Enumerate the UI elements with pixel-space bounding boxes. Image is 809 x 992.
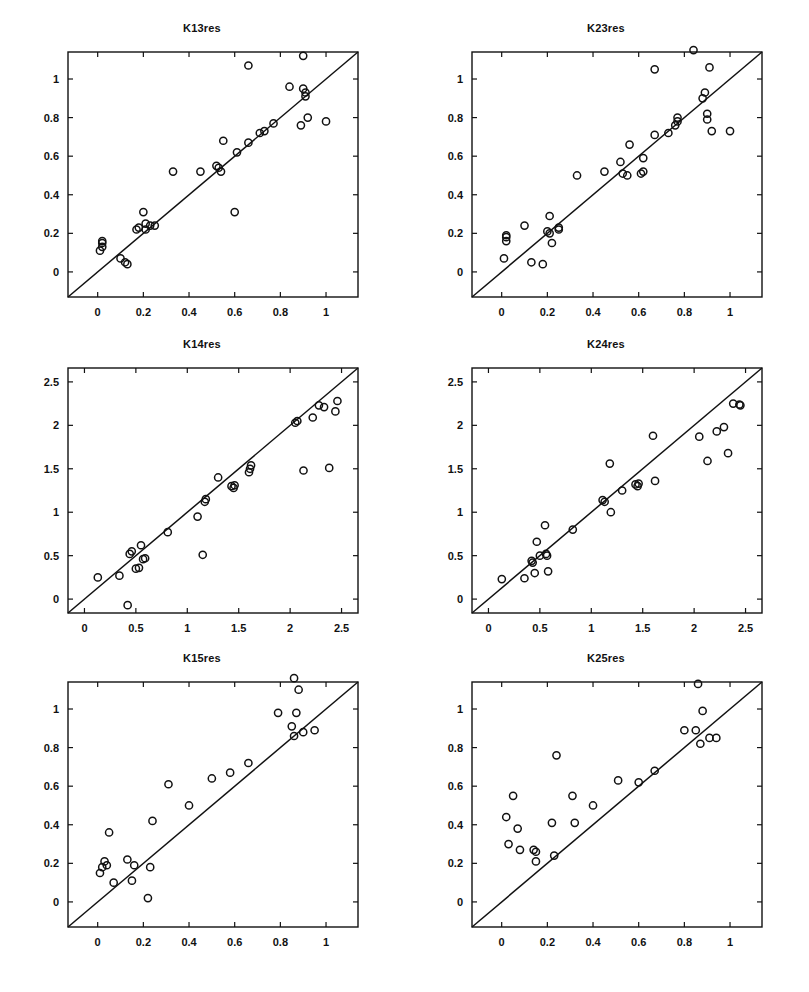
data-point-group bbox=[94, 397, 341, 608]
data-point bbox=[140, 209, 147, 216]
data-point bbox=[215, 474, 222, 481]
data-point bbox=[245, 759, 252, 766]
x-tick-label: 1.5 bbox=[635, 622, 650, 634]
identity-reference-line bbox=[472, 52, 762, 297]
data-point bbox=[640, 155, 647, 162]
data-point bbox=[498, 576, 505, 583]
y-tick-label: 1.5 bbox=[44, 463, 59, 475]
x-tick-label: 0 bbox=[95, 306, 101, 318]
y-tick-label: 1 bbox=[53, 506, 59, 518]
data-point bbox=[706, 64, 713, 71]
y-tick-label: 0.8 bbox=[44, 112, 59, 124]
data-point bbox=[220, 137, 227, 144]
data-point bbox=[322, 118, 329, 125]
y-tick-label: 2.5 bbox=[44, 376, 59, 388]
y-tick-label: 1 bbox=[53, 73, 59, 85]
data-point bbox=[532, 858, 539, 865]
data-point bbox=[293, 709, 300, 716]
data-point bbox=[726, 127, 733, 134]
identity-reference-line bbox=[68, 368, 358, 613]
x-tick-label: 0.6 bbox=[227, 936, 242, 948]
x-tick-label: 0.2 bbox=[540, 936, 555, 948]
scatter-panel: K13res00.20.40.60.8100.20.40.60.81 bbox=[0, 22, 404, 352]
y-tick-label: 0 bbox=[53, 896, 59, 908]
plot-area: 00.20.40.60.8100.20.40.60.81 bbox=[0, 652, 404, 982]
y-tick-label: 1 bbox=[53, 703, 59, 715]
data-point bbox=[708, 127, 715, 134]
data-point-group bbox=[96, 675, 318, 902]
scatter-panel: K14res00.511.522.500.511.522.5 bbox=[0, 338, 404, 668]
data-point bbox=[539, 261, 546, 268]
plot-area: 00.511.522.500.511.522.5 bbox=[0, 338, 404, 668]
data-point bbox=[713, 428, 720, 435]
data-point bbox=[110, 879, 117, 886]
data-point bbox=[297, 122, 304, 129]
y-tick-label: 0.4 bbox=[44, 819, 60, 831]
scatter-panel: K25res00.20.40.60.8100.20.40.60.81 bbox=[404, 652, 808, 982]
data-point bbox=[131, 862, 138, 869]
y-tick-label: 0.5 bbox=[44, 550, 59, 562]
x-tick-label: 2 bbox=[691, 622, 697, 634]
data-point bbox=[124, 856, 131, 863]
figure-panel-grid: K13res00.20.40.60.8100.20.40.60.81K23res… bbox=[0, 0, 809, 992]
data-point bbox=[185, 802, 192, 809]
y-tick-label: 0 bbox=[53, 266, 59, 278]
data-point bbox=[106, 829, 113, 836]
y-tick-label: 1 bbox=[457, 73, 463, 85]
data-point bbox=[137, 542, 144, 549]
data-point bbox=[571, 819, 578, 826]
data-point bbox=[553, 752, 560, 759]
y-tick-label: 0.4 bbox=[44, 189, 60, 201]
data-point bbox=[245, 62, 252, 69]
data-point bbox=[165, 781, 172, 788]
data-point bbox=[720, 423, 727, 430]
data-point bbox=[231, 209, 238, 216]
data-point bbox=[309, 414, 316, 421]
data-point bbox=[227, 769, 234, 776]
data-point bbox=[332, 408, 339, 415]
data-point bbox=[286, 83, 293, 90]
data-point bbox=[116, 572, 123, 579]
y-tick-label: 0.5 bbox=[448, 550, 463, 562]
x-tick-label: 0 bbox=[95, 936, 101, 948]
y-tick-label: 0.6 bbox=[44, 780, 59, 792]
x-tick-label: 0 bbox=[485, 622, 491, 634]
data-point bbox=[533, 538, 540, 545]
data-point bbox=[541, 522, 548, 529]
data-point bbox=[503, 813, 510, 820]
data-point bbox=[619, 170, 626, 177]
y-tick-label: 2.5 bbox=[448, 376, 463, 388]
x-tick-label: 0.2 bbox=[540, 306, 555, 318]
data-point bbox=[510, 792, 517, 799]
data-point bbox=[615, 777, 622, 784]
data-point bbox=[147, 864, 154, 871]
data-point bbox=[617, 158, 624, 165]
data-point-group bbox=[503, 680, 720, 865]
identity-reference-line bbox=[68, 682, 358, 927]
data-point bbox=[169, 168, 176, 175]
y-tick-label: 2 bbox=[53, 419, 59, 431]
y-tick-label: 0.4 bbox=[448, 189, 464, 201]
x-tick-label: 1 bbox=[323, 306, 329, 318]
x-tick-label: 0.5 bbox=[532, 622, 547, 634]
data-point bbox=[300, 52, 307, 59]
data-point bbox=[626, 141, 633, 148]
data-point bbox=[573, 172, 580, 179]
x-tick-label: 1 bbox=[727, 306, 733, 318]
data-point bbox=[197, 168, 204, 175]
y-tick-label: 0.6 bbox=[448, 150, 463, 162]
data-point bbox=[649, 432, 656, 439]
y-tick-label: 0.4 bbox=[448, 819, 464, 831]
data-point bbox=[531, 569, 538, 576]
x-tick-label: 0.4 bbox=[181, 936, 197, 948]
y-tick-label: 1 bbox=[457, 703, 463, 715]
data-point bbox=[651, 131, 658, 138]
data-point bbox=[94, 574, 101, 581]
data-point bbox=[208, 775, 215, 782]
x-tick-label: 2.5 bbox=[738, 622, 753, 634]
x-tick-label: 0.8 bbox=[273, 306, 288, 318]
data-point bbox=[548, 239, 555, 246]
x-tick-label: 0.2 bbox=[136, 936, 151, 948]
x-tick-label: 0.6 bbox=[631, 306, 646, 318]
identity-reference-line bbox=[472, 682, 762, 927]
